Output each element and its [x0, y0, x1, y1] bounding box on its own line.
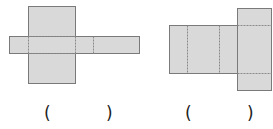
- net-face: [238, 9, 272, 91]
- answer-close-paren-2: ): [247, 105, 254, 122]
- answer-open-paren-1: (: [44, 105, 51, 122]
- nets-canvas: [0, 0, 273, 129]
- net-face: [10, 37, 140, 54]
- answer-close-paren-1: ): [106, 105, 113, 122]
- cube-net-figure-2: [170, 9, 272, 91]
- net-face: [170, 26, 238, 74]
- cube-net-figure-1: [10, 7, 140, 84]
- answer-open-paren-2: (: [185, 105, 192, 122]
